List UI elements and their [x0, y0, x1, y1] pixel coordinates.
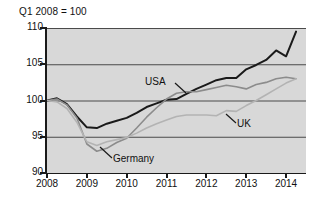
y-tick-mark [40, 63, 46, 65]
y-tick-label: 110 [3, 21, 43, 32]
x-tick-mark [166, 173, 168, 178]
x-tick-mark [46, 173, 48, 178]
series-label-usa: USA [145, 76, 166, 87]
y-tick-label: 95 [3, 130, 43, 141]
x-tick-label: 2014 [266, 178, 306, 189]
x-tick-mark [245, 173, 247, 178]
y-tick-mark [40, 136, 46, 138]
y-tick-label: 100 [3, 94, 43, 105]
series-label-uk: UK [237, 118, 251, 129]
x-tick-mark [205, 173, 207, 178]
x-tick-mark [86, 173, 88, 178]
x-tick-label: 2011 [147, 178, 187, 189]
y-tick-mark [40, 27, 46, 29]
series-label-germany: Germany [113, 153, 154, 164]
series-line-germany [47, 77, 296, 151]
x-tick-label: 2009 [67, 178, 107, 189]
x-tick-label: 2013 [226, 178, 266, 189]
y-tick-mark [40, 100, 46, 102]
series-line-uk [47, 79, 296, 146]
y-tick-label: 105 [3, 57, 43, 68]
x-tick-label: 2012 [186, 178, 226, 189]
series-line-usa [47, 32, 296, 128]
series-canvas [47, 28, 306, 173]
x-tick-mark [126, 173, 128, 178]
x-tick-label: 2008 [27, 178, 67, 189]
plot-area [47, 28, 306, 173]
x-tick-label: 2010 [107, 178, 147, 189]
y-tick-label: 90 [3, 166, 43, 177]
x-tick-mark [285, 173, 287, 178]
y-axis-labels: 9095100105110 [0, 0, 43, 208]
chart-figure: Q1 2008 = 100 9095100105110 200820092010… [0, 0, 316, 208]
